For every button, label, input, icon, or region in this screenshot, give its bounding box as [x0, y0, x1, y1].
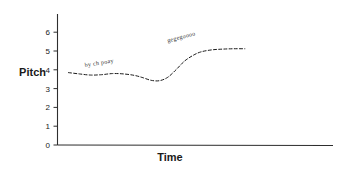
chart-background — [0, 0, 342, 170]
y-tick-label-0: 0 — [46, 141, 51, 150]
x-axis-line — [58, 145, 334, 146]
y-axis-label: Pitch — [19, 66, 46, 78]
y-tick-label-6: 6 — [46, 28, 51, 37]
y-tick-label-3: 3 — [46, 85, 51, 94]
x-axis-label: Time — [157, 151, 182, 163]
y-tick-label-1: 1 — [46, 122, 51, 131]
y-tick-label-2: 2 — [46, 103, 51, 112]
y-tick-label-4: 4 — [46, 66, 51, 75]
y-tick-label-5: 5 — [46, 47, 51, 56]
pitch-contour-chart: 0 1 2 3 4 5 6 by ch poay gegegoooo Pitch… — [0, 0, 342, 170]
